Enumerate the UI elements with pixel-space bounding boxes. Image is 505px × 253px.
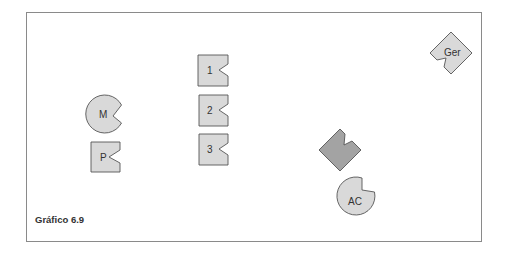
shape-3-square: 3 xyxy=(199,134,228,165)
label-m: M xyxy=(99,109,107,120)
shape-ac-circle: AC xyxy=(337,177,375,215)
label-ac: AC xyxy=(348,196,362,207)
label-p: P xyxy=(100,152,107,163)
shape-1-square: 1 xyxy=(198,55,228,86)
label-1: 1 xyxy=(207,65,213,76)
shape-p-square: P xyxy=(91,142,120,172)
label-2: 2 xyxy=(207,105,213,116)
label-ger: Ger xyxy=(444,47,461,58)
label-3: 3 xyxy=(207,144,213,155)
shape-ger-diamond: Ger xyxy=(430,32,472,74)
shape-m-circle: M xyxy=(86,95,122,133)
figure-caption: Gráfico 6.9 xyxy=(35,214,84,225)
shape-dark-diamond xyxy=(319,129,361,171)
shape-2-square: 2 xyxy=(199,95,228,126)
